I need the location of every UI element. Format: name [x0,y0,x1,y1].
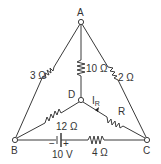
resistor-r [107,117,123,128]
resistor-label-bd: 12 Ω [56,121,78,132]
resistor-label-ab: 3 Ω [30,70,46,81]
branch-bd [17,102,79,138]
battery-positive-label: + [63,138,69,149]
resistor-ad [77,60,85,76]
battery-negative-label: − [49,138,55,149]
branch-dc [83,102,145,138]
node-d [78,97,83,102]
branch-ac [82,24,146,137]
node-c [144,137,149,142]
circuit-diagram: A B C D 3 Ω 10 Ω 2 Ω 12 Ω R 4 Ω − + 10 V… [0,0,161,164]
node-label-b: B [11,145,18,156]
resistor-label-ac: 2 Ω [118,72,134,83]
current-label: IR [92,95,100,107]
resistor-label-r: R [118,106,125,117]
resistor-ac [108,67,118,80]
resistor-label-bc: 4 Ω [92,147,108,158]
resistor-bc [88,136,104,144]
current-label-subscript: R [95,100,100,107]
branch-ad [77,25,85,97]
node-label-a: A [77,7,84,18]
node-b [12,137,17,142]
battery-voltage-label: 10 V [52,149,73,160]
node-label-c: C [143,145,150,156]
resistor-label-ad: 10 Ω [86,63,108,74]
node-a [78,19,83,24]
branch-bc [18,133,144,147]
node-label-d: D [68,89,75,100]
